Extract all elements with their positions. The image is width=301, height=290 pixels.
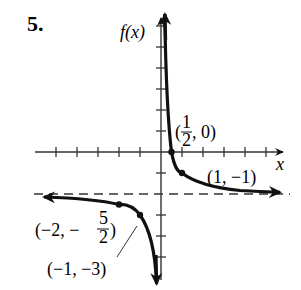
svg-text:1: 1: [182, 112, 191, 132]
svg-text:(: (: [175, 122, 181, 143]
leader-line: [117, 226, 137, 257]
point-half-zero: [168, 149, 174, 155]
y-axis-label: f(x): [120, 22, 145, 43]
svg-text:): ): [110, 220, 116, 241]
label-point-neg1-neg3: (−1, −3): [47, 259, 106, 280]
label-point-neg2-neg5half: (−2, − 5 2 ): [35, 208, 116, 247]
graph: 5. f(x) x ( 1 2 , 0) (1, −1) (−2, − 5 2 …: [0, 0, 301, 290]
problem-number: 5.: [27, 11, 44, 36]
curve-right-branch-line: [165, 14, 280, 192]
svg-text:, 0): , 0): [192, 122, 216, 143]
point-1-neg1: [179, 170, 185, 176]
point-neg2-neg5half: [116, 201, 122, 207]
svg-text:(−2, −: (−2, −: [35, 220, 79, 241]
svg-text:2: 2: [182, 130, 191, 150]
x-axis-label: x: [275, 154, 284, 174]
label-point-half-zero: ( 1 2 , 0): [175, 112, 216, 150]
label-point-1-neg1: (1, −1): [207, 167, 256, 188]
curve-right-top-arrow: [165, 14, 166, 40]
svg-text:5: 5: [99, 208, 108, 228]
point-neg1-neg3: [137, 212, 143, 218]
curve-left-bottom-arrow: [156, 255, 157, 284]
svg-text:2: 2: [99, 227, 108, 247]
